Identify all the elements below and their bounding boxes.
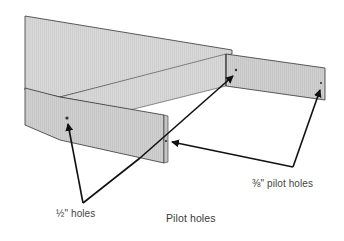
label-half-inch-holes: ½" holes — [56, 208, 95, 219]
shelf-assembly-illustration — [0, 0, 344, 241]
right-rail — [226, 54, 325, 100]
pilot-hole-right-rail-face — [235, 69, 237, 71]
diagram-caption: Pilot holes — [166, 212, 216, 224]
pilot-hole-front-rail-end — [165, 140, 167, 142]
half-inch-hole — [65, 116, 68, 119]
label-three-eighths-pilot-holes: ⅜" pilot holes — [252, 178, 313, 189]
pilot-hole-right-rail-end — [320, 82, 322, 84]
